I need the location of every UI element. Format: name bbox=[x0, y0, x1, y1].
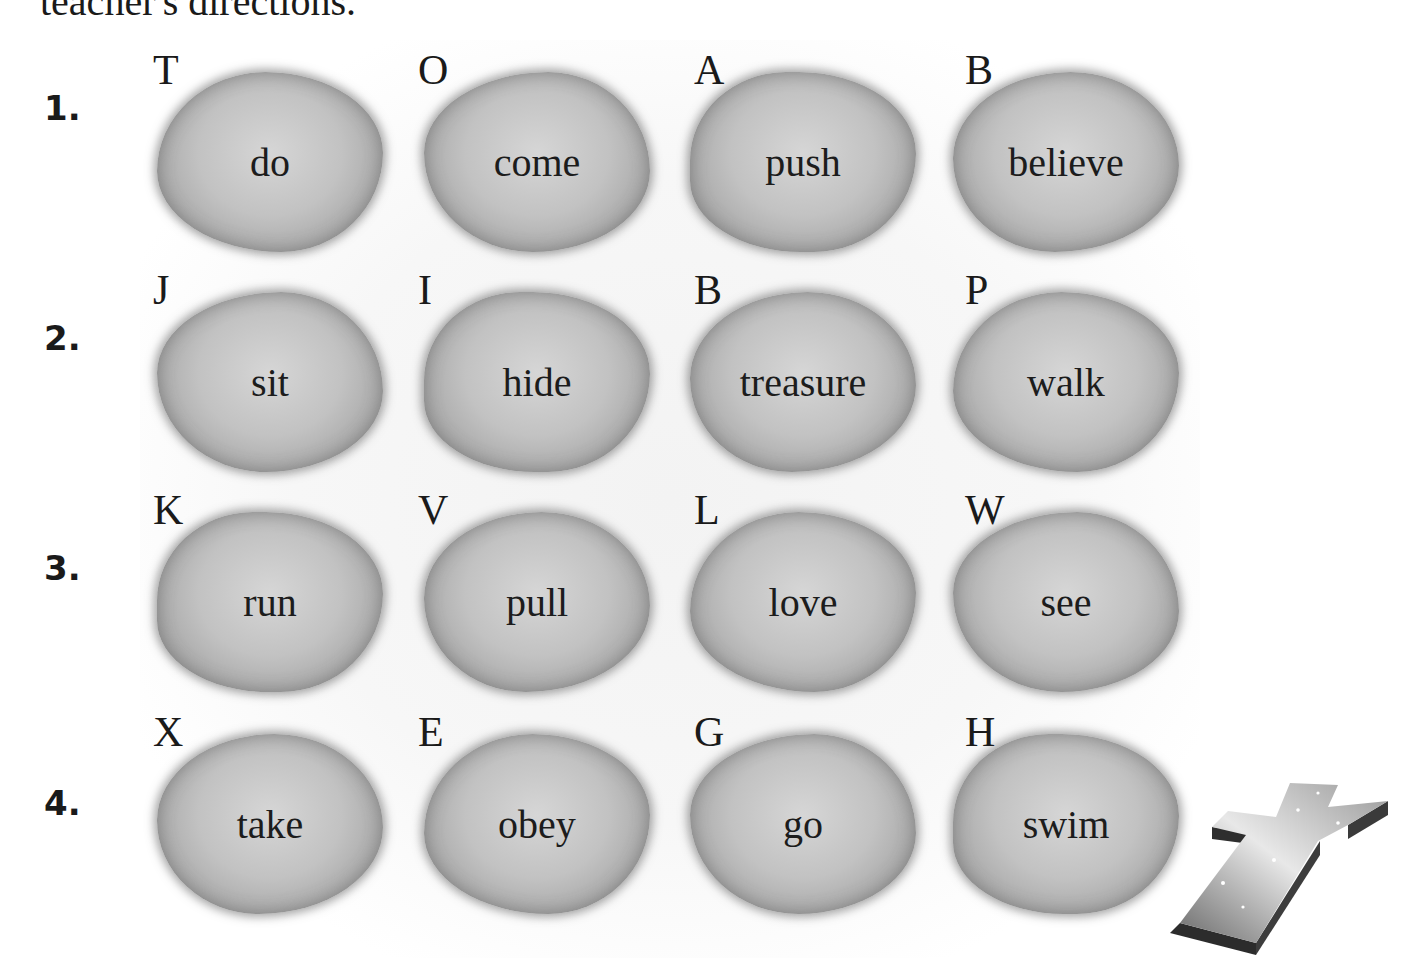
stone: do bbox=[157, 72, 383, 252]
stone-word: run bbox=[157, 579, 383, 626]
cross-icon bbox=[1168, 765, 1393, 958]
stone-word: come bbox=[424, 139, 650, 186]
stone-word: believe bbox=[953, 139, 1179, 186]
stone-word: push bbox=[690, 139, 916, 186]
stone: love bbox=[690, 512, 916, 692]
row-number: 4. bbox=[44, 783, 81, 823]
stone: come bbox=[424, 72, 650, 252]
stone: walk bbox=[953, 292, 1179, 472]
stone-word: treasure bbox=[690, 359, 916, 406]
stone-word: sit bbox=[157, 359, 383, 406]
stone-letter: K bbox=[153, 486, 183, 534]
stone: hide bbox=[424, 292, 650, 472]
stone-letter: O bbox=[418, 46, 448, 94]
stone-word: go bbox=[690, 801, 916, 848]
stone-letter: T bbox=[153, 46, 179, 94]
stone: run bbox=[157, 512, 383, 692]
stone-word: obey bbox=[424, 801, 650, 848]
stone: swim bbox=[953, 734, 1179, 914]
stone-letter: B bbox=[965, 46, 993, 94]
stone-word: walk bbox=[953, 359, 1179, 406]
stone: see bbox=[953, 512, 1179, 692]
stone-word: pull bbox=[424, 579, 650, 626]
stone-word: love bbox=[690, 579, 916, 626]
stone-letter: E bbox=[418, 708, 444, 756]
stone-letter: B bbox=[694, 266, 722, 314]
stone-letter: L bbox=[694, 486, 720, 534]
cut-off-instruction: teacher's directions. bbox=[40, 0, 356, 25]
row-number: 1. bbox=[44, 88, 81, 128]
stone-letter: X bbox=[153, 708, 183, 756]
stone-word: swim bbox=[953, 801, 1179, 848]
stone: go bbox=[690, 734, 916, 914]
stone-letter: J bbox=[153, 266, 169, 314]
stone: push bbox=[690, 72, 916, 252]
stone: treasure bbox=[690, 292, 916, 472]
stone-letter: P bbox=[965, 266, 988, 314]
stone-letter: W bbox=[965, 486, 1005, 534]
stone-letter: G bbox=[694, 708, 724, 756]
stone-word: hide bbox=[424, 359, 650, 406]
row-number: 2. bbox=[44, 318, 81, 358]
stone: take bbox=[157, 734, 383, 914]
stone: obey bbox=[424, 734, 650, 914]
stone-letter: I bbox=[418, 266, 432, 314]
stone-letter: A bbox=[694, 46, 724, 94]
stone-word: do bbox=[157, 139, 383, 186]
stone-word: take bbox=[157, 801, 383, 848]
row-number: 3. bbox=[44, 548, 81, 588]
stone: believe bbox=[953, 72, 1179, 252]
stone-letter: H bbox=[965, 708, 995, 756]
stone: pull bbox=[424, 512, 650, 692]
stone-letter: V bbox=[418, 486, 448, 534]
stone-word: see bbox=[953, 579, 1179, 626]
stone: sit bbox=[157, 292, 383, 472]
